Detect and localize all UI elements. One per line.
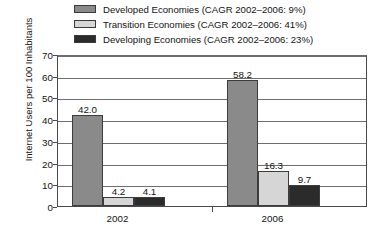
- y-tick-label: 0: [13, 202, 53, 213]
- chart-legend: Developed Economies (CAGR 2002–2006: 9%)…: [74, 2, 374, 47]
- bar-value-label: 4.1: [143, 186, 157, 197]
- gridline: [58, 56, 366, 57]
- y-axis-title: Internet Users per 100 Inhabitants: [23, 0, 34, 180]
- y-tick-label: 60: [13, 71, 53, 82]
- x-tick-label: 2002: [107, 213, 129, 224]
- gridline: [58, 143, 366, 144]
- bar: [103, 197, 134, 206]
- legend-item-developing: Developing Economies (CAGR 2002–2006: 23…: [74, 32, 374, 46]
- y-tick-label: 40: [13, 115, 53, 126]
- bar: [227, 80, 258, 206]
- legend-swatch-transition-icon: [74, 20, 96, 28]
- legend-swatch-developing-icon: [74, 35, 96, 43]
- legend-label-developing: Developing Economies (CAGR 2002–2006: 23…: [103, 34, 313, 45]
- x-tick-label: 2006: [262, 213, 284, 224]
- y-tick-label: 50: [13, 93, 53, 104]
- gridline: [58, 165, 366, 166]
- y-tick-label: 70: [13, 50, 53, 61]
- bar: [72, 115, 103, 206]
- y-tick-label: 10: [13, 180, 53, 191]
- bar: [258, 171, 289, 206]
- bar: [289, 185, 320, 206]
- y-tick-label: 20: [13, 158, 53, 169]
- bar-value-label: 4.2: [112, 186, 126, 197]
- gridline: [58, 121, 366, 122]
- legend-item-developed: Developed Economies (CAGR 2002–2006: 9%): [74, 2, 374, 16]
- y-tick-label: 30: [13, 136, 53, 147]
- plot-area: 42.04.24.158.216.39.7: [57, 55, 367, 207]
- legend-swatch-developed-icon: [74, 5, 96, 13]
- bar-value-label: 58.2: [233, 69, 252, 80]
- y-tick-mark: [53, 207, 57, 208]
- legend-label-transition: Transition Economies (CAGR 2002–2006: 41…: [103, 19, 307, 30]
- gridline: [58, 99, 366, 100]
- bar-value-label: 9.7: [298, 174, 312, 185]
- bar: [134, 197, 165, 206]
- x-tick-mark: [212, 207, 213, 212]
- bar-value-label: 42.0: [78, 104, 97, 115]
- chart-figure: Developed Economies (CAGR 2002–2006: 9%)…: [0, 0, 381, 247]
- legend-label-developed: Developed Economies (CAGR 2002–2006: 9%): [103, 4, 306, 15]
- bar-value-label: 16.3: [264, 160, 283, 171]
- legend-item-transition: Transition Economies (CAGR 2002–2006: 41…: [74, 17, 374, 31]
- gridline: [58, 78, 366, 79]
